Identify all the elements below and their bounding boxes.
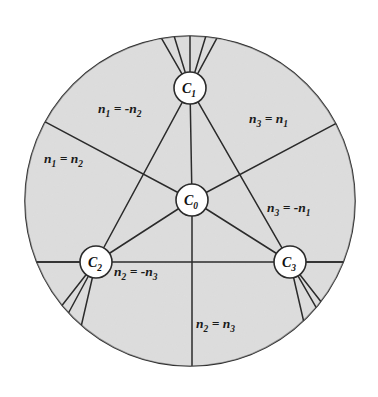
node-C2[interactable]: C2: [80, 246, 112, 278]
diagram-svg: C0C1C2C3 n1 = -n2n3 = n1n1 = n2n3 = -n1n…: [0, 0, 378, 397]
node-C1[interactable]: C1: [174, 72, 206, 104]
region-label-n2-eq-neg-n3: n2 = -n3: [114, 264, 158, 282]
region-label-n2-eq-n3: n2 = n3: [196, 316, 235, 334]
region-label-n3-eq-neg-n1: n3 = -n1: [267, 200, 310, 218]
node-C3[interactable]: C3: [274, 246, 306, 278]
figure-canvas: C0C1C2C3 n1 = -n2n3 = n1n1 = n2n3 = -n1n…: [0, 0, 378, 397]
region-label-n3-eq-n1: n3 = n1: [249, 111, 288, 129]
region-label-n1-eq-n2: n1 = n2: [44, 151, 83, 169]
node-C0[interactable]: C0: [176, 184, 208, 216]
region-label-n1-eq-neg-n2: n1 = -n2: [98, 101, 142, 119]
